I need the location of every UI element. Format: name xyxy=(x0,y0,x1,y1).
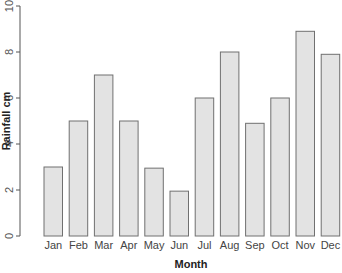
y-tick-label: 0 xyxy=(3,233,15,239)
x-tick-label: Jun xyxy=(170,239,188,251)
x-tick-label: Jul xyxy=(197,239,211,251)
y-axis-title: Rainfall cm xyxy=(0,91,12,150)
x-tick-label: Dec xyxy=(321,239,341,251)
x-tick-label: Jan xyxy=(44,239,62,251)
bar-nov xyxy=(296,31,315,236)
bar-feb xyxy=(69,121,88,236)
y-tick-label: 10 xyxy=(3,0,15,12)
bar-dec xyxy=(321,54,340,236)
x-axis-labels: JanFebMarAprMayJunJulAugSepOctNovDec xyxy=(44,239,340,251)
bar-mar xyxy=(94,75,113,236)
bar-jul xyxy=(195,98,214,236)
x-tick-label: Apr xyxy=(120,239,137,251)
bar-jun xyxy=(170,191,189,236)
x-tick-label: Oct xyxy=(271,239,288,251)
bar-sep xyxy=(246,123,265,236)
x-tick-label: Nov xyxy=(295,239,315,251)
x-tick-label: Mar xyxy=(94,239,113,251)
x-tick-label: Sep xyxy=(245,239,265,251)
x-tick-label: Feb xyxy=(69,239,88,251)
bars xyxy=(44,31,340,236)
x-tick-label: Aug xyxy=(220,239,240,251)
bar-chart: 0246810 JanFebMarAprMayJunJulAugSepOctNo… xyxy=(0,0,342,273)
y-tick-label: 2 xyxy=(3,187,15,193)
bar-oct xyxy=(271,98,290,236)
y-tick-label: 8 xyxy=(3,49,15,55)
x-tick-label: May xyxy=(144,239,165,251)
bar-may xyxy=(145,168,164,236)
bar-jan xyxy=(44,167,63,236)
x-axis-title: Month xyxy=(175,258,208,270)
bar-apr xyxy=(120,121,139,236)
bar-aug xyxy=(220,52,239,236)
